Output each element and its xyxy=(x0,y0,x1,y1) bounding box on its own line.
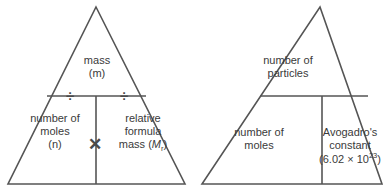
avogadro-value-open: (6.02 × 10 xyxy=(319,153,369,165)
triangle-moles-mass-mr: mass (m) number of moles (n) relative fo… xyxy=(0,0,193,193)
avogadro-value: (6.02 × 1023) xyxy=(314,152,385,166)
cell-top-left-triangle: mass (m) xyxy=(34,54,160,80)
avogadro-value-close: ) xyxy=(377,153,381,165)
bottom-left-label2: moles xyxy=(210,139,308,152)
avogadro-exponent: 23 xyxy=(369,151,377,160)
cell-top-right-triangle: number of particles xyxy=(224,54,352,80)
cell-bottom-left-left-triangle: number of moles (n) xyxy=(16,112,94,151)
triangle-moles-particles-avogadro: number of particles number of moles Avog… xyxy=(192,0,385,193)
mr-symbol: M xyxy=(152,138,161,150)
top-symbol: (m) xyxy=(34,67,160,80)
triangle-outline-left xyxy=(0,0,193,193)
bottom-right-label2: formula xyxy=(100,125,186,138)
top-symbol: particles xyxy=(224,67,352,80)
bottom-left-label: number of xyxy=(234,126,284,138)
cell-bottom-right-left-triangle: relative formula mass (Mr) xyxy=(100,112,186,154)
bottom-right-label: relative xyxy=(125,112,160,124)
multiply-icon: ✕ xyxy=(88,136,102,153)
bottom-left-label: number of xyxy=(30,112,80,124)
divide-icon-right: ÷ xyxy=(120,88,128,103)
top-label: mass xyxy=(84,54,110,66)
bottom-right-symbol-line: mass (Mr) xyxy=(100,138,186,154)
bottom-right-label: Avogadro's xyxy=(323,126,378,138)
top-label: number of xyxy=(263,54,313,66)
bottom-left-label2: moles xyxy=(16,125,94,138)
mr-close-paren: ) xyxy=(164,138,168,150)
bottom-right-label3: mass ( xyxy=(119,138,152,150)
divide-icon-left: ÷ xyxy=(66,88,74,103)
formula-triangles-figure: mass (m) number of moles (n) relative fo… xyxy=(0,0,385,193)
cell-bottom-right-right-triangle: Avogadro's constant (6.02 × 1023) xyxy=(314,126,385,166)
cell-bottom-left-right-triangle: number of moles xyxy=(210,126,308,152)
bottom-left-symbol: (n) xyxy=(16,138,94,151)
